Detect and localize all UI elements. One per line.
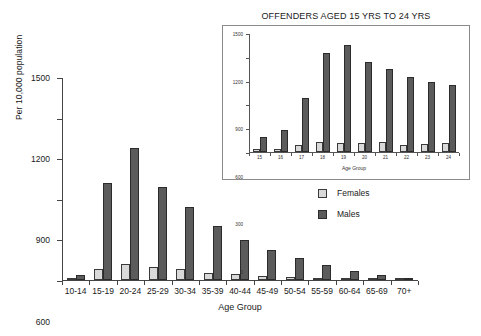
- inset-x-tick-label: 23: [425, 155, 430, 160]
- inset-bar-males-21: [386, 69, 393, 152]
- inset-bar-males-19: [344, 45, 351, 152]
- inset-x-tick: [375, 153, 376, 156]
- main-bar-group: 10-14: [67, 275, 85, 280]
- inset-bar-males-20: [365, 62, 372, 152]
- inset-bar-males-23: [428, 82, 435, 152]
- main-x-tick: [418, 281, 419, 285]
- inset-y-tick: 900: [246, 82, 249, 83]
- main-bar-females-70+: [395, 278, 404, 280]
- chart-legend: Females Males: [318, 188, 370, 230]
- inset-bar-females-24: [442, 143, 449, 152]
- main-bar-group: 45-49: [258, 250, 276, 280]
- main-x-tick-label: 25-29: [147, 286, 169, 296]
- main-bar-males-60-64: [350, 271, 359, 280]
- main-x-tick-label: 10-14: [65, 286, 87, 296]
- main-bar-males-45-49: [267, 250, 276, 280]
- inset-bar-males-15: [260, 137, 267, 152]
- main-x-tick: [226, 281, 227, 285]
- main-bar-group: 20-24: [121, 148, 139, 280]
- legend-item-females: Females: [318, 188, 370, 198]
- main-y-tick-label: 900: [36, 235, 50, 245]
- main-bar-group: 30-34: [176, 207, 194, 280]
- main-x-tick: [308, 281, 309, 285]
- main-bar-males-55-59: [322, 265, 331, 280]
- inset-x-tick: [291, 153, 292, 156]
- inset-bar-females-20: [358, 143, 365, 152]
- main-bar-males-15-19: [103, 183, 112, 280]
- legend-label-females: Females: [337, 188, 370, 198]
- inset-x-tick: [270, 153, 271, 156]
- inset-bar-group: 22: [400, 77, 414, 152]
- main-x-tick-label: 60-64: [339, 286, 361, 296]
- inset-bar-group: 19: [337, 45, 351, 152]
- main-x-tick: [62, 281, 63, 285]
- main-bar-females-20-24: [121, 264, 130, 280]
- main-y-axis-line: [62, 78, 63, 281]
- inset-bar-females-21: [379, 142, 386, 152]
- main-bar-group: 70+: [395, 278, 413, 280]
- main-x-tick-label: 20-24: [120, 286, 142, 296]
- inset-y-tick: 600: [246, 105, 249, 106]
- inset-bar-group: 24: [442, 85, 456, 152]
- inset-bar-chart: 03006009001200150015161718192021222324 A…: [222, 25, 470, 180]
- main-y-tick: 1200: [57, 119, 62, 120]
- inset-bar-group: 20: [358, 62, 372, 152]
- main-bar-group: 55-59: [313, 265, 331, 280]
- inset-x-tick: [396, 153, 397, 156]
- inset-y-tick-label: 600: [235, 174, 243, 179]
- legend-item-males: Males: [318, 209, 370, 219]
- main-x-tick-label: 55-59: [311, 286, 333, 296]
- inset-bar-females-17: [295, 145, 302, 152]
- inset-plot-area: 03006009001200150015161718192021222324: [249, 34, 459, 153]
- main-bar-females-50-54: [286, 277, 295, 280]
- main-bar-females-40-44: [231, 274, 240, 280]
- inset-x-tick: [417, 153, 418, 156]
- main-x-tick-label: 45-49: [257, 286, 279, 296]
- main-bar-group: 50-54: [286, 258, 304, 280]
- inset-y-tick-label: 900: [235, 127, 243, 132]
- main-bar-group: 35-39: [204, 226, 222, 280]
- main-bar-group: 60-64: [341, 271, 359, 280]
- main-y-tick-label: 1200: [31, 154, 50, 164]
- main-bar-females-10-14: [67, 278, 76, 280]
- inset-x-tick-label: 16: [278, 155, 283, 160]
- inset-x-tick-label: 21: [383, 155, 388, 160]
- inset-bar-group: 15: [253, 137, 267, 152]
- main-bar-females-30-34: [176, 269, 185, 280]
- legend-swatch-females-icon: [318, 189, 327, 198]
- inset-x-tick: [438, 153, 439, 156]
- inset-bar-males-16: [281, 130, 288, 152]
- main-x-tick-label: 50-54: [284, 286, 306, 296]
- inset-x-tick-label: 24: [446, 155, 451, 160]
- inset-y-axis-line: [249, 34, 250, 153]
- main-x-tick-label: 35-39: [202, 286, 224, 296]
- main-bar-males-30-34: [185, 207, 194, 280]
- main-x-tick: [144, 281, 145, 285]
- inset-x-tick-label: 19: [341, 155, 346, 160]
- inset-x-tick: [459, 153, 460, 156]
- main-x-tick: [172, 281, 173, 285]
- inset-x-tick: [333, 153, 334, 156]
- main-y-tick: 1500: [57, 78, 62, 79]
- main-x-tick-label: 70+: [397, 286, 411, 296]
- inset-y-tick-label: 0: [240, 270, 243, 275]
- main-bar-females-25-29: [149, 267, 158, 280]
- main-bar-females-35-39: [204, 273, 213, 280]
- main-bar-females-15-19: [94, 269, 103, 280]
- main-x-tick: [363, 281, 364, 285]
- main-x-axis-line: [62, 280, 418, 281]
- inset-y-tick: 300: [246, 129, 249, 130]
- inset-bar-females-22: [400, 145, 407, 152]
- legend-label-males: Males: [337, 209, 360, 219]
- inset-bar-males-22: [407, 77, 414, 152]
- main-x-tick-label: 40-44: [229, 286, 251, 296]
- inset-bar-females-23: [421, 144, 428, 152]
- inset-bar-group: 18: [316, 53, 330, 152]
- main-y-axis-title: Per 10,000 population: [14, 0, 24, 120]
- inset-x-tick: [354, 153, 355, 156]
- main-x-tick: [281, 281, 282, 285]
- main-y-tick-label: 1500: [31, 73, 50, 83]
- inset-y-tick-label: 300: [235, 222, 243, 227]
- main-x-tick: [117, 281, 118, 285]
- main-bar-males-50-54: [295, 258, 304, 280]
